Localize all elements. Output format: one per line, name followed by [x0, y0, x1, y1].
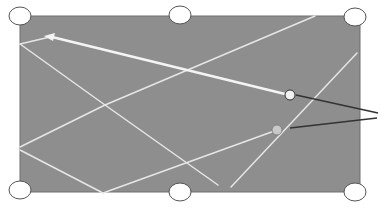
cue-ball: [285, 90, 295, 100]
pocket-top-right: [344, 8, 366, 26]
pocket-top-left: [9, 7, 31, 25]
object-ball: [272, 125, 282, 135]
pocket-top-middle: [169, 6, 191, 24]
billiard-diagram: [0, 0, 384, 211]
pocket-bottom-middle: [169, 183, 191, 201]
pocket-bottom-left: [9, 181, 31, 199]
pocket-bottom-right: [344, 183, 366, 201]
